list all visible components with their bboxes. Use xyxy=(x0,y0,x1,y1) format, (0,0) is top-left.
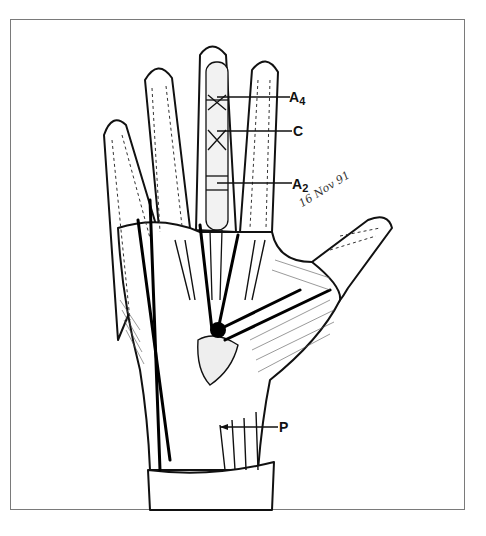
label-p: P xyxy=(279,420,288,434)
label-c: C xyxy=(293,124,303,138)
label-a4: A4 xyxy=(289,90,305,107)
hand-illustration xyxy=(0,0,486,536)
index-finger xyxy=(240,61,278,232)
label-a2: A2 xyxy=(292,177,308,194)
